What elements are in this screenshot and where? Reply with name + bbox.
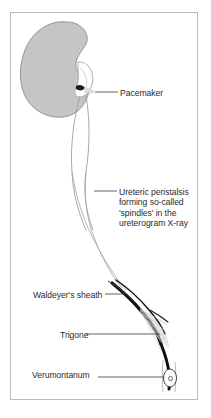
verumontanum-graphic xyxy=(164,369,177,387)
label-peristalsis-line-2: forming so-called xyxy=(119,197,201,207)
label-ureteric-peristalsis: Ureteric peristalsis forming so-called '… xyxy=(119,187,201,229)
urethra-outline-left xyxy=(162,360,163,392)
label-pacemaker: Pacemaker xyxy=(120,88,163,98)
renal-pelvis-graphic xyxy=(75,62,95,97)
ureter-spindle-lower-left xyxy=(85,172,122,288)
trigone-graphic xyxy=(140,308,170,351)
label-verumontanum: Verumontanum xyxy=(32,370,90,380)
label-trigone: Trigone xyxy=(60,330,88,340)
pelvis-hilum-shadow xyxy=(84,88,95,94)
ureter-spindle-upper-right xyxy=(85,96,93,230)
figure-root: Pacemaker Ureteric peristalsis forming s… xyxy=(0,0,211,418)
ureter-graphic xyxy=(71,96,126,290)
label-waldeyers-sheath: Waldeyer's sheath xyxy=(33,290,102,300)
trigone-fill-wash xyxy=(140,308,170,348)
ureter-spindle-upper-left xyxy=(71,96,86,230)
label-peristalsis-line-4: ureterogram X-ray xyxy=(119,218,201,228)
leader-lines xyxy=(86,92,163,377)
label-peristalsis-line-3: 'spindles' in the xyxy=(119,208,201,218)
ureter-spindle-lower-right xyxy=(72,172,126,290)
verumontanum-inner-dot xyxy=(169,376,173,380)
label-peristalsis-line-1: Ureteric peristalsis xyxy=(119,187,201,197)
